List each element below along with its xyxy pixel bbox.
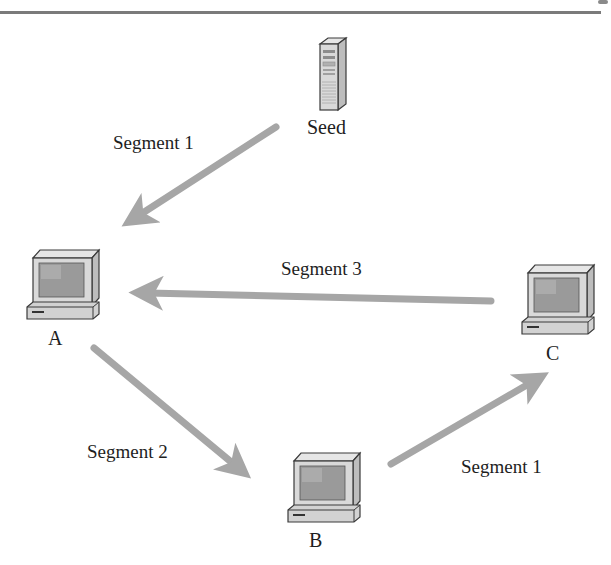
- node-label-a: A: [48, 328, 62, 348]
- server-tower-icon: [320, 38, 346, 110]
- diagram-canvas: [0, 0, 611, 565]
- desktop-computer-icon: [522, 265, 594, 334]
- edge-label-a-to-b: Segment 2: [87, 442, 168, 461]
- node-label-c: C: [546, 343, 559, 363]
- edge-label-seed-to-a: Segment 1: [113, 133, 194, 152]
- arrow-b-to-c: [391, 382, 532, 464]
- desktop-computer-icon: [288, 453, 360, 522]
- edge-label-b-to-c: Segment 1: [461, 457, 542, 476]
- edge-label-c-to-a: Segment 3: [281, 259, 362, 278]
- node-label-seed: Seed: [307, 117, 346, 137]
- arrow-c-to-a: [148, 293, 491, 301]
- desktop-computer-icon: [27, 250, 99, 319]
- node-label-b: B: [309, 530, 322, 550]
